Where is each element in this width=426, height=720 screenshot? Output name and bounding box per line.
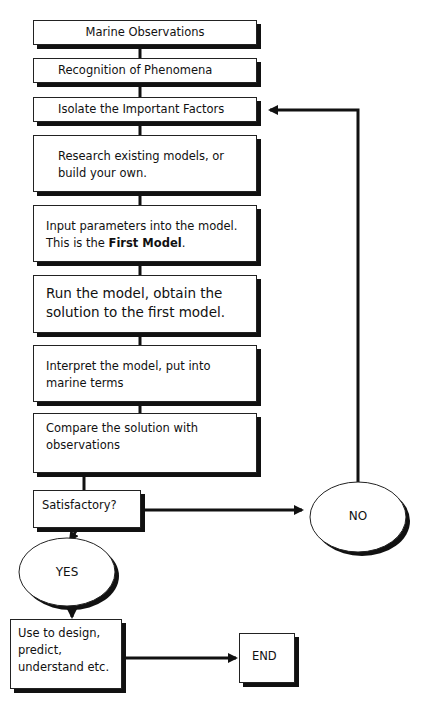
no-label: NO — [330, 509, 386, 523]
yes-label: YES — [39, 565, 95, 579]
arrow-loop-back — [270, 110, 358, 486]
step-research: Research existing models, or build your … — [33, 135, 257, 192]
decision-satisfactory: Satisfactory? — [33, 490, 141, 528]
step-run: Run the model, obtain the solution to th… — [33, 275, 257, 333]
step-marine-observations: Marine Observations — [33, 20, 257, 45]
step-interpret: Interpret the model, put into marine ter… — [33, 345, 257, 402]
step-use: Use to design, predict, understand etc. — [10, 619, 122, 689]
step-recognition: Recognition of Phenomena — [33, 58, 257, 83]
step-compare: Compare the solution with observations — [33, 413, 257, 473]
step-input: Input parameters into the model. This is… — [33, 205, 257, 262]
step-end: END — [239, 633, 295, 683]
step-isolate: Isolate the Important Factors — [33, 97, 257, 122]
